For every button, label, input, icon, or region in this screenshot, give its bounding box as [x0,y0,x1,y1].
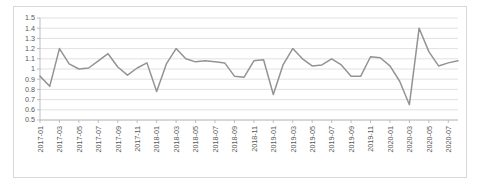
x-tick-label: 2020-01 [386,126,395,152]
y-tick-label: 1.2 [25,44,35,53]
y-tick-label: 1.5 [25,13,35,22]
x-tick-label: 2017-09 [114,126,123,152]
x-tick-label: 2018-05 [191,126,200,152]
chart-plot-area: 1.51.41.31.21.110.90.80.70.60.5 2017-012… [14,7,466,177]
x-tick-label: 2018-11 [250,126,259,152]
x-tick-label: 2017-05 [75,126,84,152]
x-tick-label: 2017-07 [94,126,103,152]
chart-container: 1.51.41.31.21.110.90.80.70.60.5 2017-012… [13,6,467,178]
x-tick-label: 2018-07 [211,126,220,152]
y-tick-label: 1 [31,64,35,73]
y-tick-label: 1.4 [25,24,35,33]
y-tick-label: 1.3 [25,34,35,43]
y-axis-labels-group: 1.51.41.31.21.110.90.80.70.60.5 [25,13,35,124]
y-tick-label: 0.7 [25,95,35,104]
data-series-line [40,28,458,105]
x-tick-label: 2019-09 [347,126,356,152]
x-tick-label: 2019-07 [327,126,336,152]
y-tick-label: 0.6 [25,105,35,114]
x-tick-label: 2019-03 [289,126,298,152]
x-tick-label: 2020-07 [444,126,453,152]
y-tick-label: 0.5 [25,115,35,124]
x-tick-label: 2018-09 [230,126,239,152]
y-tick-label: 1.1 [25,54,35,63]
x-axis-labels-group: 2017-012017-032017-052017-072017-092017-… [36,126,453,152]
x-tick-label: 2018-03 [172,126,181,152]
x-tick-label: 2017-01 [36,126,45,152]
x-tick-label: 2020-03 [405,126,414,152]
x-tick-label: 2017-11 [133,126,142,152]
x-tick-label: 2019-05 [308,126,317,152]
x-tick-label: 2019-01 [269,126,278,152]
y-tick-label: 0.9 [25,75,35,84]
x-tick-label: 2017-03 [55,126,64,152]
y-tick-label: 0.8 [25,85,35,94]
x-tick-label: 2019-11 [366,126,375,152]
line-chart-svg: 1.51.41.31.21.110.90.80.70.60.5 2017-012… [14,7,466,177]
x-tick-label: 2020-05 [425,126,434,152]
x-tick-label: 2018-01 [152,126,161,152]
